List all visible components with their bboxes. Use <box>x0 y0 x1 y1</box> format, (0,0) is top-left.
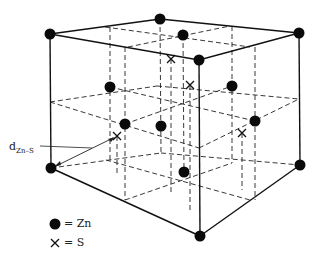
s-atoms <box>113 55 246 140</box>
legend-symbols <box>50 219 61 248</box>
bond-length-label: dZn–S <box>9 140 34 155</box>
cube-edges <box>50 19 300 236</box>
zns-unit-cell-diagram <box>0 0 314 259</box>
legend-s-label: = S <box>64 236 84 249</box>
legend-zn-icon <box>50 219 61 230</box>
legend-s-icon <box>51 239 59 247</box>
internal-dashed-lines <box>50 19 300 210</box>
zn-atoms <box>45 14 306 242</box>
legend-zn-label: = Zn <box>64 217 91 230</box>
